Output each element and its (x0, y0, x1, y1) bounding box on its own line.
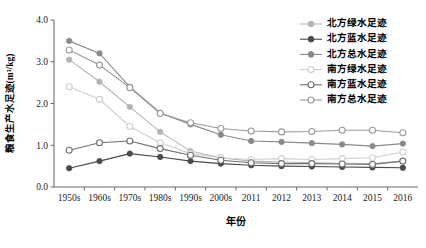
data-point (309, 140, 314, 145)
legend-marker (308, 97, 314, 103)
y-tick-label: 3.0 (36, 57, 48, 67)
data-point (370, 155, 376, 161)
line-chart: 0.01.02.03.04.01950s1960s1970s1980s1990s… (0, 0, 426, 248)
y-tick-label: 1.0 (36, 141, 48, 151)
x-tick-label: 2016 (393, 193, 412, 203)
axis-layer: 0.01.02.03.04.01950s1960s1970s1980s1990s… (36, 15, 418, 203)
series-line (69, 154, 403, 169)
legend-label: 南方蓝水足迹 (327, 78, 387, 89)
legend-label: 北方蓝水足迹 (327, 32, 387, 43)
legend-item-1[interactable]: 北方绿水足迹 (300, 17, 387, 28)
data-point (339, 161, 345, 167)
y-tick-label: 0.0 (36, 182, 48, 192)
x-tick-label: 1990s (179, 193, 202, 203)
chart-container: 0.01.02.03.04.01950s1960s1970s1980s1990s… (0, 0, 426, 248)
y-tick-label: 4.0 (36, 15, 48, 25)
data-point (370, 161, 376, 167)
data-point (400, 165, 405, 170)
data-point (218, 132, 223, 137)
data-point (66, 166, 71, 171)
series-2 (66, 151, 405, 171)
x-tick-label: 2015 (363, 193, 382, 203)
y-tick-label: 2.0 (36, 99, 48, 109)
chart-legend: 北方绿水足迹北方蓝水足迹北方总水足迹南方绿水足迹南方蓝水足迹南方总水足迹 (300, 17, 387, 104)
data-point (279, 129, 285, 135)
data-point (127, 138, 133, 144)
series-6 (66, 47, 406, 136)
data-point (400, 130, 406, 136)
data-point (66, 84, 72, 90)
data-point (248, 160, 254, 166)
x-tick-label: 1980s (149, 193, 172, 203)
x-tick-label: 1960s (88, 193, 111, 203)
data-point (309, 128, 315, 134)
data-point (157, 146, 163, 152)
data-point (66, 38, 71, 43)
data-point (400, 141, 405, 146)
data-point (127, 123, 133, 129)
legend-marker (308, 82, 314, 88)
legend-item-5[interactable]: 南方蓝水足迹 (300, 78, 387, 89)
data-point (400, 158, 406, 164)
data-point (157, 140, 163, 146)
data-point (309, 161, 315, 167)
legend-marker (308, 21, 314, 27)
data-point (248, 138, 253, 143)
data-point (248, 128, 254, 134)
data-point (127, 85, 133, 91)
data-point (66, 57, 71, 62)
x-tick-label: 2012 (272, 193, 291, 203)
x-tick-label: 2000s (209, 193, 232, 203)
legend-item-4[interactable]: 南方绿水足迹 (300, 63, 387, 74)
data-point (218, 126, 224, 132)
data-point (218, 157, 224, 163)
data-point (339, 127, 345, 133)
data-point (66, 147, 72, 153)
data-point (97, 158, 102, 163)
x-tick-label: 2011 (242, 193, 261, 203)
data-point (157, 111, 163, 117)
data-point (157, 154, 162, 159)
data-point (127, 151, 132, 156)
data-point (157, 129, 162, 134)
legend-marker (308, 36, 314, 42)
data-point (97, 140, 103, 146)
y-axis-title: 粮食生产水足迹(m³/kg) (4, 54, 16, 154)
x-tick-label: 2014 (333, 193, 352, 203)
data-point (279, 161, 285, 167)
legend-label: 北方绿水足迹 (327, 17, 387, 28)
data-point (339, 142, 344, 147)
data-point (279, 139, 284, 144)
x-axis-title: 年份 (226, 215, 247, 227)
x-tick-label: 2013 (302, 193, 321, 203)
legend-label: 南方绿水足迹 (327, 63, 387, 74)
data-point (370, 143, 375, 148)
legend-item-2[interactable]: 北方蓝水足迹 (300, 32, 387, 43)
legend-item-3[interactable]: 北方总水足迹 (300, 48, 387, 59)
data-point (127, 104, 132, 109)
data-point (400, 149, 406, 155)
data-point (97, 62, 103, 68)
legend-label: 北方总水足迹 (327, 48, 387, 59)
data-point (66, 47, 72, 53)
x-tick-label: 1970s (118, 193, 141, 203)
data-point (97, 51, 102, 56)
legend-label: 南方总水足迹 (327, 93, 387, 104)
legend-item-6[interactable]: 南方总水足迹 (300, 93, 387, 104)
data-point (188, 152, 194, 158)
data-point (97, 79, 102, 84)
data-point (97, 96, 103, 102)
data-point (188, 120, 194, 126)
x-tick-label: 1950s (58, 193, 81, 203)
data-point (188, 158, 193, 163)
data-point (370, 127, 376, 133)
legend-marker (308, 52, 314, 58)
legend-marker (308, 67, 314, 73)
